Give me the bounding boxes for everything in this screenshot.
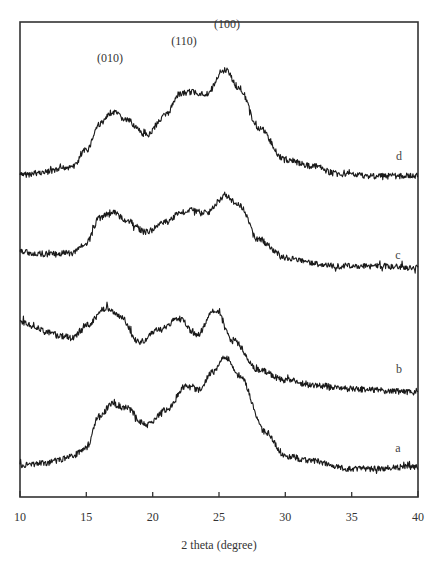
- tick-label-10: 10: [14, 510, 26, 524]
- xrd-curves: [20, 67, 418, 473]
- series-label-d: d: [396, 149, 402, 163]
- tick-label-40: 40: [412, 510, 424, 524]
- peak-label-110: (110): [171, 34, 197, 48]
- plot-frame: [20, 22, 418, 497]
- series-label-a: a: [395, 441, 401, 455]
- xrd-curve-b: [20, 302, 418, 395]
- peak-label-010: (010): [97, 51, 123, 65]
- peak-label-100: (100): [214, 17, 240, 31]
- xrd-chart: 10 15 20 25 30 35 40 2 theta (degree) (0…: [0, 0, 438, 562]
- xrd-curve-c: [20, 192, 418, 273]
- series-label-c: c: [395, 248, 400, 262]
- tick-label-15: 15: [80, 510, 92, 524]
- xrd-curve-d: [20, 67, 418, 179]
- series-label-b: b: [396, 362, 402, 376]
- tick-label-30: 30: [279, 510, 291, 524]
- tick-label-25: 25: [213, 510, 225, 524]
- x-axis-tick-labels: 10 15 20 25 30 35 40: [14, 510, 424, 524]
- xrd-curve-a: [20, 356, 418, 473]
- x-axis-title: 2 theta (degree): [181, 538, 256, 552]
- tick-label-20: 20: [147, 510, 159, 524]
- tick-label-35: 35: [346, 510, 358, 524]
- x-axis-ticks: [20, 491, 418, 497]
